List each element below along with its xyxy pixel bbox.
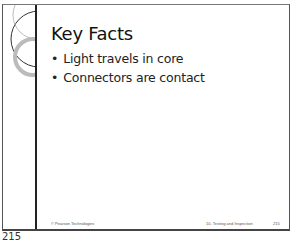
footer-copyright: © Pearson Technologies bbox=[51, 221, 94, 226]
slide: Key Facts •Light travels in core •Connec… bbox=[2, 4, 290, 231]
page-number: 215 bbox=[2, 231, 21, 242]
bullet-item: •Connectors are contact bbox=[51, 68, 205, 87]
bullet-list: •Light travels in core •Connectors are c… bbox=[51, 49, 205, 87]
footer-section: 10- Testing and Inspection bbox=[206, 221, 253, 226]
slide-title: Key Facts bbox=[51, 23, 133, 44]
vertical-accent-line bbox=[35, 5, 37, 229]
decorative-circles-icon bbox=[3, 5, 37, 85]
bullet-item: •Light travels in core bbox=[51, 49, 205, 68]
footer-slide-number: 215 bbox=[273, 221, 280, 226]
